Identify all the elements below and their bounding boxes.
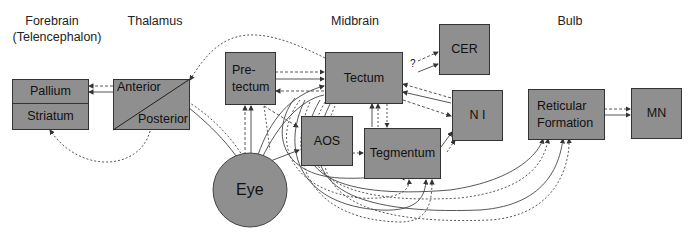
pretectum-node: Pre-tectum <box>225 52 276 105</box>
tectum-node: Tectum <box>325 52 403 104</box>
pretectum-label-1: Pre- <box>232 62 256 79</box>
tectum-label: Tectum <box>344 70 384 87</box>
ni-node: N I <box>452 90 503 141</box>
cer-label: CER <box>451 41 477 58</box>
eye-label: Eye <box>236 181 264 199</box>
cer-node: CER <box>439 24 490 75</box>
reticular-formation-node: ReticularFormation <box>528 89 605 140</box>
region-midbrain: Midbrain <box>325 14 385 28</box>
reticular-label-2: Formation <box>537 115 593 132</box>
tegmentum-node: Tegmentum <box>364 128 441 179</box>
aos-node: AOS <box>301 116 353 166</box>
region-forebrain-sub: (Telencephalon) <box>12 30 102 44</box>
tegmentum-label: Tegmentum <box>370 145 435 162</box>
question-mark: ? <box>410 58 416 69</box>
ni-label: N I <box>470 107 486 124</box>
mn-node: MN <box>631 88 682 139</box>
posterior-label: Posterior <box>138 112 188 126</box>
pallium-node: Pallium <box>12 79 89 104</box>
anterior-label: Anterior <box>117 80 161 94</box>
pallium-label: Pallium <box>30 83 71 100</box>
aos-label: AOS <box>314 133 340 150</box>
region-bulb: Bulb <box>550 14 590 28</box>
reticular-label-1: Reticular <box>537 98 586 115</box>
region-thalamus: Thalamus <box>125 14 185 28</box>
striatum-label: Striatum <box>27 108 74 125</box>
striatum-node: Striatum <box>12 103 89 130</box>
mn-label: MN <box>647 105 666 122</box>
pretectum-label-2: tectum <box>232 79 270 96</box>
region-forebrain: Forebrain <box>22 14 82 28</box>
